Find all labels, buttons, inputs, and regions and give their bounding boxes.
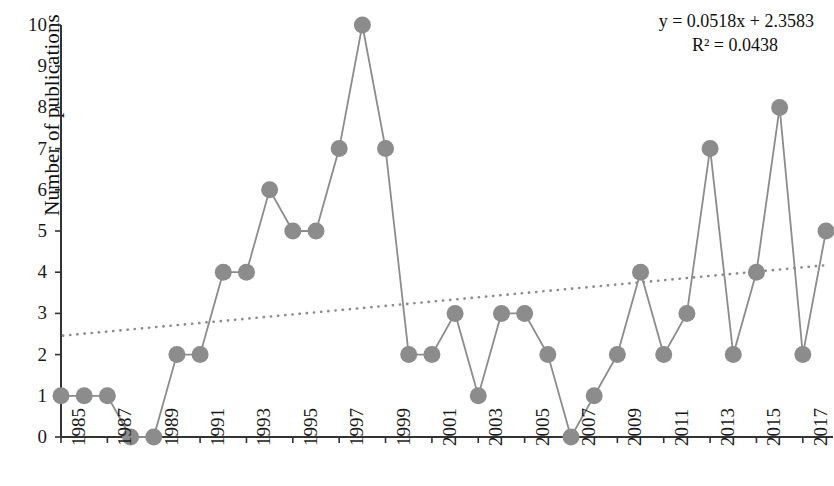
x-tick-label: 2005 (533, 408, 552, 446)
y-tick-label: 10 (13, 15, 47, 34)
data-point-marker (377, 140, 394, 157)
x-tick-label: 2011 (672, 409, 691, 446)
data-point-marker (818, 223, 834, 240)
x-tick-label: 1995 (301, 408, 320, 446)
y-tick-label: 6 (13, 180, 47, 199)
y-tick-label: 5 (13, 221, 47, 240)
data-point-marker (678, 305, 695, 322)
x-tick-label: 1999 (394, 408, 413, 446)
data-point-marker (145, 429, 162, 446)
data-point-marker (308, 223, 325, 240)
y-tick-label: 9 (13, 56, 47, 75)
data-point-marker (423, 346, 440, 363)
data-point-marker (261, 181, 278, 198)
data-point-marker (215, 264, 232, 281)
data-point-marker (609, 346, 626, 363)
x-tick-label: 1993 (254, 408, 273, 446)
data-point-marker (493, 305, 510, 322)
data-point-marker (447, 305, 464, 322)
x-tick-label: 1991 (208, 408, 227, 446)
x-tick-label: 2017 (811, 408, 830, 446)
axes (61, 25, 833, 437)
trendline (63, 265, 826, 335)
data-point-marker (168, 346, 185, 363)
data-point-marker (470, 387, 487, 404)
x-tick-label: 2015 (764, 408, 783, 446)
data-point-marker (655, 346, 672, 363)
y-tick-label: 4 (13, 262, 47, 281)
x-tick-label: 1997 (347, 408, 366, 446)
x-tick-label: 2013 (718, 408, 737, 446)
data-point-marker (192, 346, 209, 363)
data-point-marker (354, 17, 371, 34)
data-point-marker (76, 387, 93, 404)
y-tick-label: 3 (13, 303, 47, 322)
x-tick-label: 1989 (162, 408, 181, 446)
data-point-marker (771, 99, 788, 116)
data-point-marker (400, 346, 417, 363)
data-point-marker (563, 429, 580, 446)
x-tick-label: 1987 (115, 408, 134, 446)
data-point-marker (238, 264, 255, 281)
y-tick-label: 1 (13, 386, 47, 405)
x-tick-label: 1985 (69, 408, 88, 446)
y-tick-label: 0 (13, 427, 47, 446)
data-point-marker (539, 346, 556, 363)
data-point-marker (632, 264, 649, 281)
publications-line-chart: Number of publications y = 0.0518x + 2.3… (0, 0, 834, 486)
y-tick-label: 7 (13, 139, 47, 158)
data-point-marker (702, 140, 719, 157)
data-point-marker (53, 387, 70, 404)
x-tick-label: 2003 (486, 408, 505, 446)
series-line (61, 25, 826, 437)
data-point-marker (794, 346, 811, 363)
data-point-marker (99, 387, 116, 404)
x-tick-label: 2007 (579, 408, 598, 446)
data-point-marker (331, 140, 348, 157)
x-tick-label: 2001 (440, 408, 459, 446)
y-tick-label: 8 (13, 97, 47, 116)
data-point-marker (586, 387, 603, 404)
y-tick-label: 2 (13, 345, 47, 364)
data-point-marker (516, 305, 533, 322)
data-point-marker (284, 223, 301, 240)
x-tick-label: 2009 (625, 408, 644, 446)
data-point-marker (725, 346, 742, 363)
